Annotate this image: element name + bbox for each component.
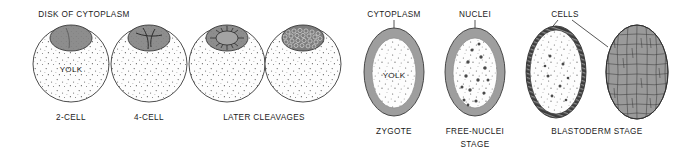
cleavage-diagram: DISK OF CYTOPLASM YOLK 2-CELL 4-CELL (0, 0, 683, 168)
label-cytoplasm: CYTOPLASM (367, 10, 421, 19)
free-nuclei-yolk (453, 38, 497, 108)
egg-free-nuclei: FREE-NUCLEI STAGE (445, 28, 505, 149)
label-blastoderm-stage: BLASTODERM STAGE (551, 127, 642, 136)
label-yolk-right: YOLK (383, 71, 406, 80)
label-later-cleavages: LATER CLEAVAGES (223, 113, 305, 122)
label-cells: CELLS (551, 10, 579, 19)
label-nuclei: NUCLEI (459, 10, 491, 19)
label-disk-of-cytoplasm: DISK OF CYTOPLASM (38, 10, 129, 19)
blastoderm-yolk (530, 30, 582, 114)
label-4-cell: 4-CELL (134, 113, 164, 122)
label-yolk-left: YOLK (60, 65, 83, 74)
label-zygote: ZYGOTE (376, 127, 412, 136)
label-2-cell: 2-CELL (56, 113, 86, 122)
label-free-nuclei: FREE-NUCLEI (446, 127, 504, 136)
label-stage: STAGE (461, 140, 490, 149)
